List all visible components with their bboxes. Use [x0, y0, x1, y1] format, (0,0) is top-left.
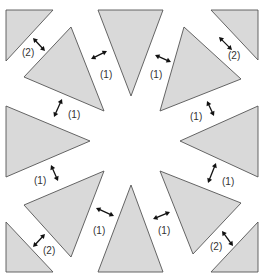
- gap-label-gap-left-lower: (1): [34, 175, 46, 186]
- gap-label-gap-bl-corner: (2): [43, 245, 55, 256]
- gap-label-gap-bc-left: (1): [93, 225, 105, 236]
- gap-label-gap-br-corner: (2): [210, 241, 222, 252]
- gap-label-gap-left-upper: (1): [68, 109, 80, 120]
- diagram-canvas: (2)(1)(1)(2)(1)(1)(1)(2)(1)(1)(1)(2): [0, 0, 269, 279]
- double-arrow-icon: [207, 101, 215, 116]
- triangle-bottom-center: [98, 185, 163, 272]
- triangle-top-center: [98, 10, 163, 96]
- gap-label-gap-bc-right: (1): [158, 225, 170, 236]
- double-arrow-icon: [53, 99, 62, 117]
- arrowhead-icon: [222, 231, 227, 236]
- double-arrow-icon: [91, 51, 107, 60]
- gap-label-gap-tl-corner: (2): [22, 47, 34, 58]
- double-arrow-icon: [155, 54, 171, 62]
- gap-label-gap-right-lower: (1): [222, 176, 234, 187]
- gap-label-gap-tc-right: (1): [150, 69, 162, 80]
- double-arrow-icon: [219, 37, 232, 50]
- gap-label-gap-tr-corner: (2): [228, 50, 240, 61]
- double-arrow-icon: [33, 38, 45, 51]
- double-arrow-icon: [207, 163, 216, 183]
- double-arrow-icon: [222, 231, 233, 246]
- triangle-tiling-diagram: (2)(1)(1)(2)(1)(1)(1)(2)(1)(1)(1)(2): [0, 0, 269, 279]
- double-arrow-icon: [96, 207, 114, 216]
- gap-label-gap-right-upper: (1): [190, 111, 202, 122]
- arrowhead-icon: [228, 241, 233, 246]
- triangle-upper-right: [160, 27, 241, 111]
- double-arrow-icon: [50, 165, 58, 181]
- gap-label-gap-tc-left: (1): [100, 69, 112, 80]
- double-arrow-icon: [153, 211, 170, 219]
